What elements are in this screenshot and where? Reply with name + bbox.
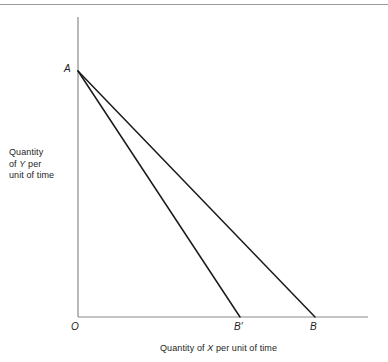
x-axis-label-prefix: Quantity of xyxy=(160,343,207,353)
y-axis-label-line3: unit of time xyxy=(9,170,54,180)
budget-line-ab xyxy=(78,71,315,317)
point-label-b-prime: B′ xyxy=(234,321,243,332)
y-axis-label: Quantityof Y perunit of time xyxy=(9,147,79,182)
point-label-a: A xyxy=(64,63,71,74)
y-axis-label-line1: Quantity xyxy=(9,147,43,157)
y-axis-label-line2-prefix: of xyxy=(9,159,19,169)
point-label-origin: O xyxy=(71,321,79,332)
x-axis-label-suffix: per unit of time xyxy=(213,343,277,353)
y-axis-label-line2-suffix: per xyxy=(25,159,41,169)
point-label-b: B xyxy=(310,321,317,332)
figure-canvas: Quantityof Y perunit of time Quantity of… xyxy=(0,0,388,362)
x-axis-label: Quantity of X per unit of time xyxy=(160,343,277,355)
budget-line-ab-prime xyxy=(78,71,240,317)
